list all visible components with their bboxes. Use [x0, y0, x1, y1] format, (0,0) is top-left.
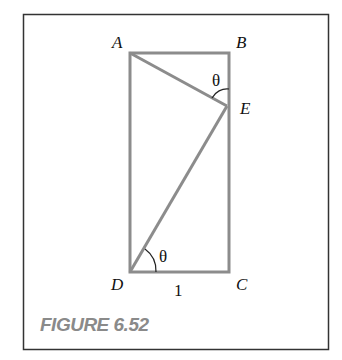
angle-arc-d — [145, 249, 156, 272]
figure-6-52: A B E D C θ θ 1 FIGURE 6.52 — [0, 0, 342, 360]
point-label-d: D — [110, 275, 124, 294]
angle-arc-e — [212, 89, 229, 98]
side-label-dc: 1 — [174, 281, 183, 300]
point-label-b: B — [236, 33, 247, 52]
angle-label-d: θ — [159, 247, 167, 266]
point-label-c: C — [236, 275, 248, 294]
point-label-a: A — [111, 33, 123, 52]
figure-caption: FIGURE 6.52 — [40, 314, 149, 335]
angle-label-e: θ — [212, 71, 220, 90]
segment-de — [130, 106, 227, 272]
point-label-e: E — [239, 99, 251, 118]
